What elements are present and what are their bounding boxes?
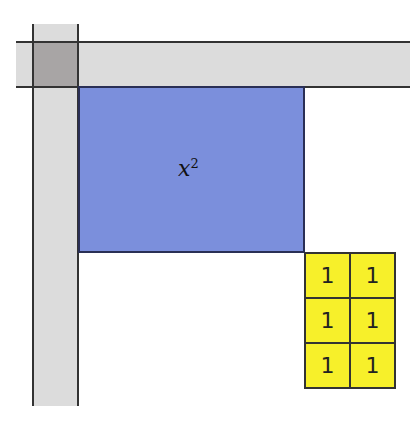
overlap-corner-square <box>34 43 77 86</box>
unit-tile: 1 <box>305 343 350 388</box>
unit-tile: 1 <box>350 298 395 343</box>
label-base: x <box>178 156 190 181</box>
unit-tile: 1 <box>305 298 350 343</box>
label-exponent: 2 <box>190 156 198 171</box>
x-squared-label: x2 <box>178 156 199 181</box>
unit-tile-grid: 1 1 1 1 1 1 <box>304 252 396 389</box>
unit-tile: 1 <box>350 343 395 388</box>
unit-tile: 1 <box>305 253 350 298</box>
unit-tile: 1 <box>350 253 395 298</box>
